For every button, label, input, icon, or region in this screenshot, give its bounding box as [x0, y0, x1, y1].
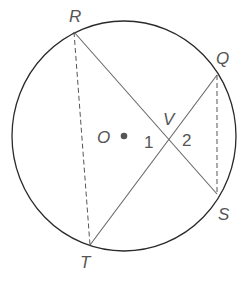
label-q: Q [216, 49, 229, 68]
chord-qt [90, 75, 217, 245]
label-angle-1: 1 [144, 133, 153, 152]
label-s: S [218, 205, 230, 224]
center-dot [121, 133, 128, 140]
label-v: V [163, 110, 176, 129]
circle-diagram: R Q V O 1 2 S T [0, 0, 241, 282]
label-t: T [80, 253, 92, 272]
label-angle-2: 2 [182, 131, 191, 150]
chord-rs [74, 32, 217, 194]
dashed-segment-rt [74, 32, 90, 245]
label-r: R [69, 7, 81, 26]
label-o: O [97, 128, 110, 147]
